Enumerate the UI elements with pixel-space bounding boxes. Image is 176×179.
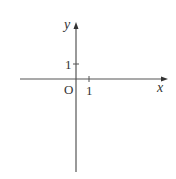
coordinate-plane: y x O 1 1	[0, 0, 176, 179]
x-tick-label: 1	[86, 84, 93, 97]
x-axis-label: x	[157, 81, 163, 95]
origin-label: O	[64, 83, 73, 96]
y-axis-label: y	[64, 18, 70, 32]
y-tick-label: 1	[65, 58, 72, 71]
y-axis-arrow-icon	[74, 22, 79, 29]
